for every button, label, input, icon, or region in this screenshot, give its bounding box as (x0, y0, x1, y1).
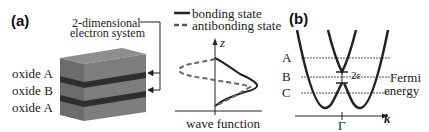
wave-function-plot (175, 38, 262, 115)
wave-function-label: wave function (186, 117, 260, 130)
gamma-point-label: Γ (338, 119, 346, 132)
fermi-label-line2: energy (384, 84, 419, 97)
legend-lines (174, 13, 190, 25)
k-axis-label: k (384, 112, 391, 125)
layer-label-middle: oxide B (12, 84, 53, 97)
level-a-label: A (282, 51, 291, 64)
layered-oxide-block (60, 48, 146, 121)
panel-b-label: (b) (289, 10, 308, 27)
level-c-label: C (282, 86, 291, 99)
band-structure-plot (295, 30, 390, 120)
2des-title-line2: electron system (70, 27, 145, 40)
z-axis-label: z (220, 36, 225, 49)
level-b-label: B (282, 70, 291, 83)
layer-label-top: oxide A (12, 67, 53, 80)
legend-antibonding: antibonding state (192, 19, 281, 32)
gap-label: 2ε (351, 69, 361, 82)
panel-a-label: (a) (11, 12, 29, 29)
layer-label-bottom: oxide A (12, 101, 53, 114)
